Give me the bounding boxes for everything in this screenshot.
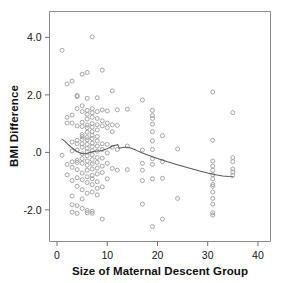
- x-tick-label: 40: [252, 249, 264, 261]
- x-tick-label: 30: [202, 249, 214, 261]
- y-tick-label: -2.0: [23, 204, 41, 216]
- y-tick-label: 2.0: [27, 89, 42, 101]
- scatter-plot-figure: 010203040 4.02.0.0-2.0 Size of Maternal …: [0, 0, 284, 283]
- x-tick-label: 20: [152, 249, 164, 261]
- y-tick-label: .0: [33, 146, 42, 158]
- figure-background: [0, 0, 284, 283]
- x-tick-label: 10: [101, 249, 113, 261]
- y-tick-label: 4.0: [27, 31, 42, 43]
- x-tick-label: 0: [54, 249, 60, 261]
- x-axis-title: Size of Maternal Descent Group: [72, 265, 248, 277]
- y-axis-title: BMI Difference: [8, 85, 20, 167]
